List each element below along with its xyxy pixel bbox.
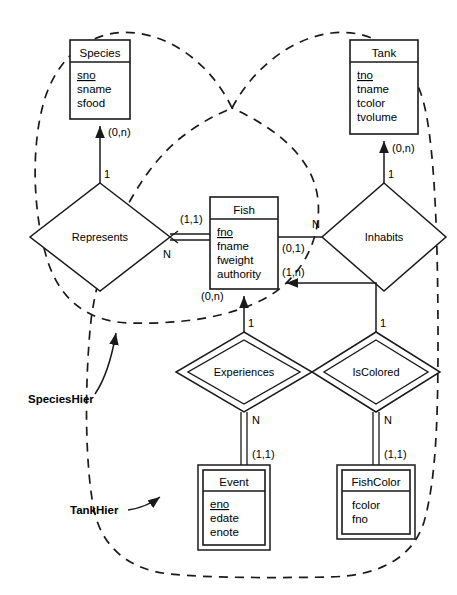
entity-event-attr-enote: enote bbox=[210, 526, 239, 538]
card-experiences-fish-side: 1 bbox=[248, 317, 254, 329]
entity-fish-attr-key: fno bbox=[217, 226, 233, 238]
entity-fish[interactable]: Fish fno fname fweight authority bbox=[210, 197, 278, 289]
entity-fishcolor-attr-fno: fno bbox=[352, 513, 368, 525]
entity-fish-title: Fish bbox=[233, 204, 255, 216]
annotation-specieshier-arrow bbox=[95, 333, 116, 394]
entity-fish-attr-fname: fname bbox=[217, 240, 249, 252]
card-species-represents: (0,n) bbox=[108, 126, 131, 138]
annotation-specieshier: SpeciesHier bbox=[28, 333, 116, 405]
er-diagram-canvas: Species sno sname sfood Tank tno tname t… bbox=[0, 0, 457, 595]
card-inhabits-fish-side: N bbox=[312, 218, 320, 230]
relationship-inhabits-label: Inhabits bbox=[365, 231, 404, 243]
entity-fishcolor-title: FishColor bbox=[351, 476, 400, 488]
card-represents-fish-side: N bbox=[163, 248, 171, 260]
entity-species-attr-key: sno bbox=[77, 69, 96, 81]
relationship-iscolored[interactable]: IsColored bbox=[312, 332, 440, 412]
entity-tank-attr-key: tno bbox=[357, 69, 373, 81]
entity-tank-attr-tname: tname bbox=[357, 83, 389, 95]
entity-fishcolor[interactable]: FishColor fcolor fno bbox=[337, 465, 415, 539]
entity-species-attr-sfood: sfood bbox=[77, 97, 105, 109]
card-represents-fish-minmax: (1,1) bbox=[180, 213, 203, 225]
entity-tank[interactable]: Tank tno tname tcolor tvolume bbox=[350, 40, 418, 134]
entity-event-attr-edate: edate bbox=[210, 512, 239, 524]
card-inhabits-fish-minmax: (0,1) bbox=[282, 242, 305, 254]
entity-event[interactable]: Event eno edate enote bbox=[198, 465, 270, 550]
card-iscolored-fishcolor-side: N bbox=[384, 414, 392, 426]
relationship-experiences-label: Experiences bbox=[214, 366, 275, 378]
relationship-iscolored-label: IsColored bbox=[352, 366, 399, 378]
card-experiences-fish-minmax: (0,n) bbox=[201, 290, 224, 302]
annotation-tankhier-arrow bbox=[128, 497, 160, 510]
entity-fish-attr-fweight: fweight bbox=[217, 254, 254, 266]
card-experiences-event-minmax: (1,1) bbox=[252, 448, 275, 460]
entity-fishcolor-attr-fcolor: fcolor bbox=[352, 499, 380, 511]
card-iscolored-fishcolor-minmax: (1,1) bbox=[384, 448, 407, 460]
card-iscolored-fish-side: 1 bbox=[380, 317, 386, 329]
edge-iscolored-fish bbox=[286, 283, 376, 332]
entity-fish-attr-authority: authority bbox=[217, 268, 261, 280]
entity-species-title: Species bbox=[80, 47, 121, 59]
entity-event-title: Event bbox=[219, 476, 249, 488]
relationship-represents[interactable]: Represents bbox=[30, 183, 170, 291]
card-inhabits-tank-side: 1 bbox=[388, 168, 394, 180]
card-tank-inhabits: (0,n) bbox=[392, 142, 415, 154]
relationship-represents-label: Represents bbox=[72, 231, 129, 243]
annotation-tankhier-label: TankHier bbox=[70, 504, 119, 516]
relationship-experiences[interactable]: Experiences bbox=[176, 332, 312, 412]
annotation-tankhier: TankHier bbox=[70, 497, 160, 516]
card-iscolored-fish-minmax: (1,n) bbox=[282, 266, 305, 278]
entity-species-attr-sname: sname bbox=[77, 83, 112, 95]
entity-tank-attr-tcolor: tcolor bbox=[357, 97, 385, 109]
relationship-inhabits[interactable]: Inhabits bbox=[322, 183, 446, 291]
entity-species[interactable]: Species sno sname sfood bbox=[70, 40, 130, 119]
card-represents-species-side: 1 bbox=[104, 168, 110, 180]
entity-event-attr-key: eno bbox=[210, 498, 229, 510]
annotation-specieshier-label: SpeciesHier bbox=[28, 393, 94, 405]
card-experiences-event-side: N bbox=[252, 414, 260, 426]
entity-tank-attr-tvolume: tvolume bbox=[357, 111, 397, 123]
entity-tank-title: Tank bbox=[372, 47, 397, 59]
er-diagram-svg: Species sno sname sfood Tank tno tname t… bbox=[0, 0, 457, 595]
